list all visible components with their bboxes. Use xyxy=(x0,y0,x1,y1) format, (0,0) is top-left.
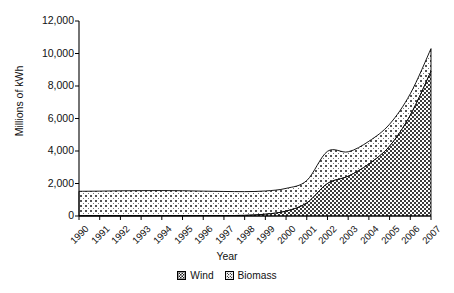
chart-legend: WindBiomass xyxy=(0,270,454,281)
legend-swatch-biomass-icon xyxy=(225,271,234,280)
legend-label: Wind xyxy=(190,270,213,281)
legend-item[interactable]: Biomass xyxy=(225,270,277,281)
x-axis-title: Year xyxy=(0,250,454,262)
legend-swatch-wind-icon xyxy=(177,271,186,280)
chart-figure: Millions of kWh 02,0004,0006,0008,00010,… xyxy=(0,0,454,293)
legend-label: Biomass xyxy=(238,270,277,281)
legend-item[interactable]: Wind xyxy=(177,270,213,281)
